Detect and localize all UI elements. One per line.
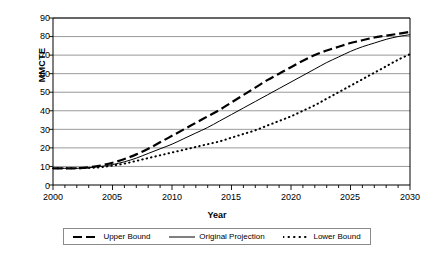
x-axis-tick-labels: 2000 2005 2010 2015 2020 2025 2030 (0, 0, 434, 262)
x-tick-label: 2025 (330, 193, 370, 202)
chart-container: MMCTE 90 80 70 60 50 40 30 20 10 0 2000 … (0, 0, 434, 262)
legend-swatch-dashed-icon (73, 234, 99, 240)
x-tick-label: 2010 (152, 193, 192, 202)
x-tick-label: 2015 (211, 193, 251, 202)
legend-label: Upper Bound (103, 233, 150, 241)
legend-swatch-dotted-icon (283, 234, 309, 240)
x-axis-title: Year (0, 210, 434, 220)
chart-legend: Upper Bound Original Projection Lower Bo… (63, 228, 371, 245)
x-tick-label: 2020 (271, 193, 311, 202)
legend-swatch-solid-icon (169, 234, 195, 240)
x-tick-label: 2030 (390, 193, 430, 202)
legend-label: Lower Bound (313, 233, 360, 241)
legend-item-upper-bound: Upper Bound (73, 233, 150, 241)
x-tick-label: 2005 (92, 193, 132, 202)
legend-label: Original Projection (199, 233, 264, 241)
legend-item-original-projection: Original Projection (169, 233, 264, 241)
legend-item-lower-bound: Lower Bound (283, 233, 360, 241)
x-tick-label: 2000 (33, 193, 73, 202)
